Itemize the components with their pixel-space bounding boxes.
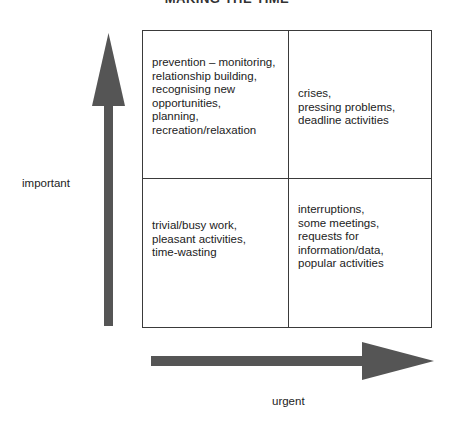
vertical-axis-label: important [22, 177, 70, 189]
vertical-arrow-icon [92, 33, 125, 326]
matrix-horizontal-divider [142, 178, 432, 179]
quadrant-not-important-urgent: interruptions, some meetings, requests f… [298, 203, 430, 271]
horizontal-arrow-icon [151, 342, 434, 380]
horizontal-axis-label: urgent [272, 395, 305, 407]
quadrant-not-important-not-urgent: trivial/busy work, pleasant activities, … [152, 219, 288, 260]
quadrant-important-urgent: crises, pressing problems, deadline acti… [298, 87, 430, 128]
quadrant-important-not-urgent: prevention – monitoring, relationship bu… [152, 56, 288, 137]
